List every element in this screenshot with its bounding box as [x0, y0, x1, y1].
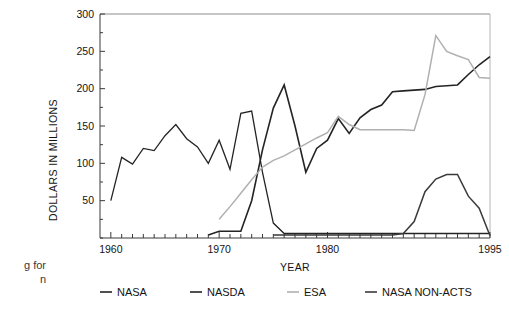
- figure-container: 50100150200250300 1960197019801995 DOLLA…: [0, 0, 509, 311]
- x-axis-title: YEAR: [280, 261, 310, 273]
- y-axis-ticks: [100, 14, 105, 238]
- legend-label-nasda: NASDA: [207, 286, 246, 298]
- chart-legend: NASANASDAESANASA NON-ACTS: [100, 286, 472, 298]
- line-chart: 50100150200250300 1960197019801995 DOLLA…: [0, 0, 509, 311]
- y-tick-label: 100: [76, 157, 94, 169]
- x-tick-label: 1995: [478, 243, 502, 255]
- y-tick-label: 300: [76, 8, 94, 20]
- y-tick-label: 50: [82, 194, 94, 206]
- y-tick-label: 150: [76, 120, 94, 132]
- x-axis-tick-labels: 1960197019801995: [99, 243, 502, 255]
- series-lines: [111, 36, 490, 236]
- x-tick-label: 1970: [207, 243, 231, 255]
- series-line-nasa-non-acts: [273, 175, 490, 236]
- y-axis-tick-labels: 50100150200250300: [76, 8, 94, 207]
- x-tick-label: 1980: [316, 243, 340, 255]
- y-axis-title: DOLLARS IN MILLIONS: [47, 99, 59, 221]
- series-line-nasda: [208, 57, 490, 235]
- y-tick-label: 200: [76, 82, 94, 94]
- y-tick-label: 250: [76, 45, 94, 57]
- series-line-nasa: [111, 111, 490, 233]
- legend-label-esa: ESA: [304, 286, 327, 298]
- caption-fragment: g for n: [0, 258, 46, 286]
- series-line-esa: [219, 36, 490, 220]
- x-tick-label: 1960: [99, 243, 123, 255]
- legend-label-nasa-non-acts: NASA NON-ACTS: [382, 286, 472, 298]
- legend-label-nasa: NASA: [117, 286, 148, 298]
